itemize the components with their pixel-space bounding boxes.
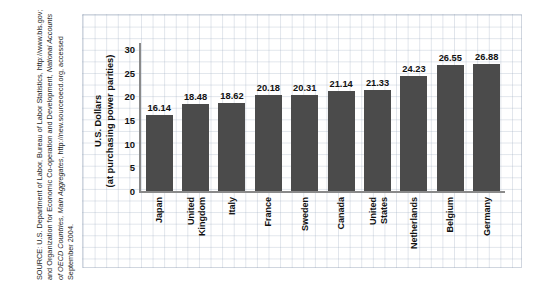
x-category-label: UnitedStates [367,197,388,225]
x-category-label-line: Netherlands [409,197,419,249]
bar-value-label: 18.48 [184,92,207,102]
source-note-text: SOURCE: U.S. Department of Labor, Bureau… [35,8,77,280]
bar[interactable] [146,115,173,191]
chart-page: SOURCE: U.S. Department of Labor, Bureau… [0,0,536,288]
bar[interactable] [400,76,427,191]
x-axis-categories: JapanUnitedKingdomItalyFranceSwedenCanad… [141,193,505,265]
x-category-label-line: Japan [154,197,164,223]
bar-value-label: 26.88 [475,52,498,62]
x-category-label-line: Italy [227,197,237,215]
y-axis-title-line2: (at purchasing power parities) [105,55,115,188]
bar-slot[interactable]: 18.62 [214,49,250,191]
x-category-slot: Canada [323,193,359,265]
x-category-label: Belgium [445,197,456,233]
bar-slot[interactable]: 26.88 [469,49,505,191]
x-category-label: Italy [227,197,238,215]
bar-slot[interactable]: 20.31 [287,49,323,191]
x-category-label: Sweden [300,197,311,231]
bar[interactable] [182,104,209,191]
bar-series: 16.1418.4818.6220.1820.3121.1421.3324.23… [141,49,505,191]
x-category-label: Japan [154,197,165,223]
x-category-label-line: United [367,197,377,225]
bar-value-label: 21.14 [330,79,353,89]
source-note-rotation: SOURCE: U.S. Department of Labor, Bureau… [5,8,77,280]
x-category-slot: Belgium [432,193,468,265]
y-axis-title: U.S. Dollars (at purchasing power pariti… [89,45,119,197]
x-category-label-line: States [378,197,389,225]
x-category-slot: France [250,193,286,265]
bar-slot[interactable]: 21.33 [359,49,395,191]
y-axis-title-line1: U.S. Dollars [93,95,103,147]
x-category-label-line: France [263,197,273,227]
y-tick-label: 30 [124,44,135,55]
x-category-label: UnitedKingdom [185,197,206,236]
x-category-slot: Japan [141,193,177,265]
x-category-label-line: Sweden [300,197,310,231]
y-axis-title-rotation: U.S. Dollars (at purchasing power pariti… [92,55,116,188]
bar-slot[interactable]: 16.14 [141,49,177,191]
bar-value-label: 20.18 [257,83,280,93]
bar-value-label: 18.62 [220,91,243,101]
y-tick-label: 5 [130,162,135,173]
x-category-slot: UnitedKingdom [177,193,213,265]
x-category-slot: Netherlands [396,193,432,265]
x-category-label: France [263,197,274,227]
x-category-label: Canada [336,197,347,230]
x-category-label: Netherlands [409,197,420,249]
bar-slot[interactable]: 20.18 [250,49,286,191]
x-category-slot: UnitedStates [359,193,395,265]
bar[interactable] [364,90,391,191]
y-tick-label: 25 [124,67,135,78]
bar[interactable] [473,64,500,191]
chart-frame: U.S. Dollars (at purchasing power pariti… [82,14,522,268]
bar-slot[interactable]: 18.48 [177,49,213,191]
bar-slot[interactable]: 24.23 [396,49,432,191]
y-tick-label: 15 [124,115,135,126]
x-category-label-line: Canada [336,197,346,230]
x-category-slot: Sweden [287,193,323,265]
bar-value-label: 21.33 [366,78,389,88]
x-category-label: Germany [481,197,492,236]
x-category-label-line: Germany [481,197,491,236]
x-category-label-line: Kingdom [196,197,207,236]
bar-value-label: 16.14 [148,103,171,113]
x-category-slot: Germany [469,193,505,265]
bar-value-label: 20.31 [293,83,316,93]
bar[interactable] [218,103,245,191]
plot-area: 051015202530 16.1418.4818.6220.1820.3121… [139,49,505,191]
bar-value-label: 26.55 [439,53,462,63]
bar-value-label: 24.23 [402,64,425,74]
bar[interactable] [328,91,355,191]
bar-slot[interactable]: 21.14 [323,49,359,191]
x-category-slot: Italy [214,193,250,265]
x-category-label-line: United [185,197,195,225]
bar[interactable] [437,65,464,191]
source-note-container: SOURCE: U.S. Department of Labor, Bureau… [0,0,82,288]
bar-slot[interactable]: 26.55 [432,49,468,191]
x-category-label-line: Belgium [445,197,455,233]
y-tick-label: 10 [124,138,135,149]
y-tick-label: 20 [124,91,135,102]
y-tick-label: 0 [130,186,135,197]
bar[interactable] [255,95,282,191]
bar[interactable] [291,95,318,191]
